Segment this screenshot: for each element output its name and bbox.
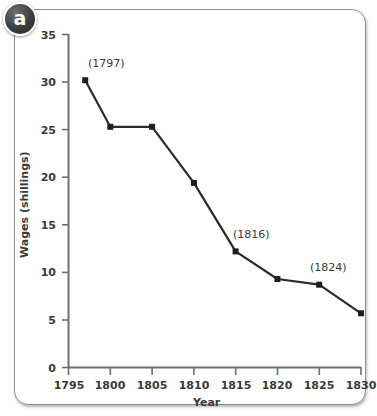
- y-tick-label-5: 5: [26, 314, 56, 327]
- series-line: [85, 80, 361, 313]
- data-point-marker-1825: [316, 282, 322, 288]
- data-point-marker-1820: [274, 276, 280, 282]
- y-axis-ticks: [62, 35, 68, 368]
- y-tick-label-30: 30: [26, 76, 56, 89]
- data-point-marker-1797: [82, 77, 88, 83]
- data-point-marker-1810: [191, 180, 197, 186]
- panel-letter-label: a: [14, 9, 27, 30]
- annotation-1797: (1797): [88, 57, 125, 70]
- y-tick-label-25: 25: [26, 124, 56, 137]
- x-tick-label-1830: 1830: [340, 379, 377, 392]
- data-point-marker-1800: [107, 124, 113, 130]
- x-tick-label-1810: 1810: [173, 379, 215, 392]
- y-axis-title: Wages (shillings): [18, 151, 31, 258]
- y-tick-label-0: 0: [26, 362, 56, 375]
- annotation-1816: (1816): [233, 228, 270, 241]
- x-tick-label-1805: 1805: [131, 379, 173, 392]
- x-axis-title: Year: [193, 396, 220, 409]
- x-tick-label-1815: 1815: [215, 379, 257, 392]
- x-tick-label-1795: 1795: [48, 379, 90, 392]
- data-point-marker-1830: [358, 310, 364, 316]
- x-tick-label-1825: 1825: [298, 379, 340, 392]
- data-point-marker-1815: [233, 248, 239, 254]
- y-tick-label-10: 10: [26, 266, 56, 279]
- data-point-marker-1805: [149, 124, 155, 130]
- x-tick-label-1820: 1820: [256, 379, 298, 392]
- x-tick-label-1800: 1800: [89, 379, 131, 392]
- line-chart: 35 30 25 20 15 10 5 0 1795 1800 1805 181…: [0, 0, 377, 416]
- annotation-1824: (1824): [310, 261, 347, 274]
- data-series-wages: [82, 77, 364, 316]
- chart-plot-area: [0, 0, 377, 416]
- panel-letter-badge: a: [3, 2, 37, 36]
